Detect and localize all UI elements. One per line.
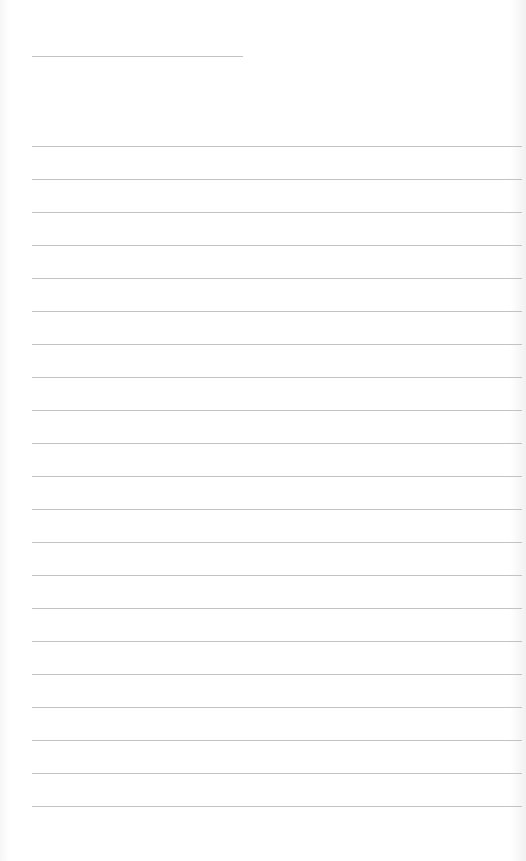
writing-line (32, 278, 522, 279)
writing-line (32, 311, 522, 312)
writing-line (32, 773, 522, 774)
writing-line (32, 608, 522, 609)
writing-line (32, 146, 522, 147)
writing-line (32, 542, 522, 543)
writing-line (32, 443, 522, 444)
writing-line (32, 377, 522, 378)
writing-line (32, 509, 522, 510)
writing-line (32, 410, 522, 411)
writing-lines (32, 0, 522, 861)
lined-paper-sheet (0, 0, 526, 861)
writing-line (32, 641, 522, 642)
writing-line (32, 707, 522, 708)
writing-line (32, 179, 522, 180)
writing-line (32, 674, 522, 675)
writing-line (32, 740, 522, 741)
writing-line (32, 245, 522, 246)
writing-line (32, 212, 522, 213)
writing-line (32, 806, 522, 807)
writing-line (32, 575, 522, 576)
writing-line (32, 476, 522, 477)
writing-line (32, 344, 522, 345)
